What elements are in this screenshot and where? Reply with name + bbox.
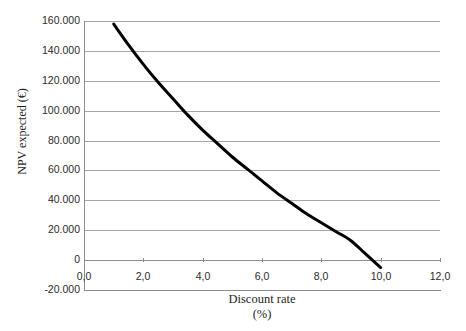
x-axis-title: Discount rate (%) xyxy=(84,292,440,322)
x-axis-tick-label: 10,0 xyxy=(359,270,403,282)
y-axis-tick-label: 80.000 xyxy=(2,134,80,146)
gridline-y xyxy=(84,51,440,52)
x-axis-tick xyxy=(203,258,204,262)
x-axis-tick-label: 2,0 xyxy=(121,270,165,282)
x-axis-tick-label: 8,0 xyxy=(299,270,343,282)
y-axis-tick-label: -20.000 xyxy=(2,283,80,295)
gridline-y xyxy=(84,111,440,112)
chart-bottom-border xyxy=(84,290,441,291)
y-axis-tick-label: 60.000 xyxy=(2,163,80,175)
x-axis-tick-label: 0,0 xyxy=(62,270,106,282)
y-axis-tick-label: 0 xyxy=(2,253,80,265)
x-axis-tick xyxy=(321,258,322,262)
gridline-y xyxy=(84,21,440,22)
x-axis-unit-text: (%) xyxy=(84,307,440,322)
gridline-y xyxy=(84,170,440,171)
y-axis-tick-label: 140.000 xyxy=(2,44,80,56)
y-axis-line xyxy=(84,21,85,290)
gridline-y xyxy=(84,200,440,201)
gridline-y xyxy=(84,141,440,142)
y-axis-tick-label: 20.000 xyxy=(2,223,80,235)
x-axis-tick-label: 4,0 xyxy=(181,270,225,282)
x-axis-tick-label: 6,0 xyxy=(240,270,284,282)
x-axis-title-text: Discount rate xyxy=(229,292,296,306)
x-axis-tick xyxy=(143,258,144,262)
x-axis-tick xyxy=(381,258,382,262)
npv-curve-line xyxy=(114,24,381,268)
y-axis-tick-label: 120.000 xyxy=(2,74,80,86)
x-axis-tick xyxy=(440,258,441,262)
y-axis-tick-label: 100.000 xyxy=(2,104,80,116)
y-axis-tick-label: 160.000 xyxy=(2,14,80,26)
chart-figure: NPV expected (€) -20.000020.00040.00060.… xyxy=(0,0,466,331)
x-axis-tick-label: 12,0 xyxy=(418,270,462,282)
y-axis-tick-label: 40.000 xyxy=(2,193,80,205)
gridline-y xyxy=(84,81,440,82)
x-axis-tick xyxy=(262,258,263,262)
gridline-y xyxy=(84,230,440,231)
